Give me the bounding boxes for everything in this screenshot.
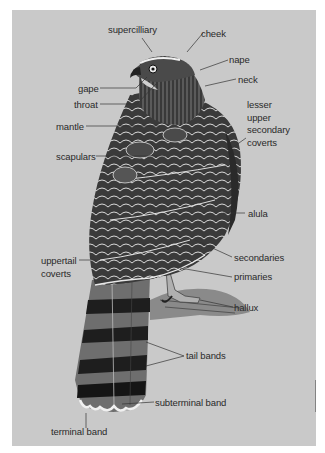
hawk-illustration	[0, 0, 325, 453]
label-line: coverts	[41, 268, 111, 281]
label-line: coverts	[247, 137, 317, 150]
label-uppertail-coverts: uppertail coverts	[41, 255, 111, 280]
label-hallux: hallux	[234, 302, 258, 313]
label-nape: nape	[229, 54, 250, 65]
label-primaries: primaries	[234, 271, 272, 282]
label-supercilliary: supercilliary	[108, 24, 157, 35]
label-alula: alula	[248, 208, 268, 219]
label-subterminal-band: subterminal band	[155, 397, 226, 408]
label-throat: throat	[74, 99, 98, 110]
label-terminal-band: terminal band	[51, 426, 107, 437]
label-neck: neck	[238, 74, 258, 85]
label-line: upper	[247, 112, 317, 125]
label-cheek: cheek	[201, 28, 226, 39]
label-lesser-upper-secondary-coverts: lesser upper secondary coverts	[247, 99, 317, 149]
label-scapulars: scapulars	[56, 151, 96, 162]
label-mantle: mantle	[56, 121, 84, 132]
label-tail-bands: tail bands	[186, 350, 226, 361]
tail	[75, 275, 150, 412]
page-edge-mark	[315, 380, 316, 412]
label-line: uppertail	[41, 255, 111, 268]
label-gape: gape	[78, 83, 99, 94]
label-line: lesser	[247, 99, 317, 112]
label-line: secondary	[247, 124, 317, 137]
label-secondaries: secondaries	[234, 252, 284, 263]
